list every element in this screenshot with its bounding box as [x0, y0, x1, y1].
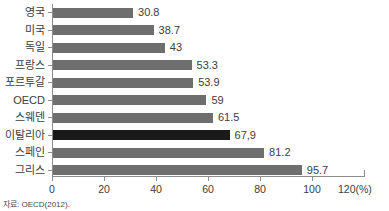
bar-row: 독일43	[52, 39, 364, 57]
x-axis-tick-label: 40	[150, 183, 162, 195]
category-label: 영국	[25, 4, 45, 22]
plot-area: 영국30.8미국38.7독일43프랑스53.3포르투갈53.9OECD59스웨덴…	[52, 4, 364, 176]
y-axis-tick	[48, 12, 52, 13]
bar-value-label: 59	[211, 92, 223, 110]
category-label: OECD	[13, 92, 45, 110]
bar-chart: 영국30.8미국38.7독일43프랑스53.3포르투갈53.9OECD59스웨덴…	[0, 0, 389, 211]
bar-value-label: 61.5	[218, 109, 239, 127]
category-label: 스페인	[15, 144, 45, 162]
y-axis-tick	[48, 135, 52, 136]
source-note: 자료: OECD(2012).	[3, 198, 70, 209]
y-axis-tick	[48, 100, 52, 101]
y-axis-tick	[48, 117, 52, 118]
category-label: 미국	[25, 22, 45, 40]
x-axis-end-tick	[364, 170, 365, 177]
y-axis-tick	[48, 152, 52, 153]
bar-value-label: 53.9	[198, 74, 219, 92]
x-axis-tick	[208, 176, 209, 181]
bar	[53, 60, 192, 70]
bar	[53, 43, 165, 53]
category-label: 프랑스	[15, 57, 45, 75]
x-axis-tick	[312, 176, 313, 181]
x-axis-tick-label: 20	[98, 183, 110, 195]
y-axis-tick	[48, 65, 52, 66]
bar-row: 영국30.8	[52, 4, 364, 22]
y-axis-tick	[48, 47, 52, 48]
x-axis-tick-label: 60	[202, 183, 214, 195]
x-axis-tick	[104, 176, 105, 181]
bar	[53, 95, 206, 105]
x-axis-tick-label: 0	[49, 183, 55, 195]
category-label: 독일	[25, 39, 45, 57]
bar	[53, 113, 213, 123]
bar-value-label: 67,9	[235, 127, 256, 145]
bar-value-label: 43	[170, 39, 182, 57]
bar	[53, 78, 193, 88]
x-axis-tick	[260, 176, 261, 181]
category-label: 그리스	[15, 162, 45, 180]
bar-row: OECD59	[52, 92, 364, 110]
y-axis-tick	[48, 170, 52, 171]
bar-value-label: 95.7	[307, 162, 328, 180]
category-label: 포르투갈	[5, 74, 45, 92]
bar	[53, 130, 230, 140]
x-axis-tick-label: 100	[303, 183, 321, 195]
bar-row: 프랑스53.3	[52, 57, 364, 75]
bar-row: 이탈리아67,9	[52, 127, 364, 145]
bar-value-label: 38.7	[159, 22, 180, 40]
y-axis-tick	[48, 30, 52, 31]
x-axis-tick	[156, 176, 157, 181]
y-axis-tick	[48, 82, 52, 83]
bar	[53, 8, 133, 18]
bar-row: 스페인81.2	[52, 144, 364, 162]
bar-row: 미국38.7	[52, 22, 364, 40]
bar-row: 스웨덴61.5	[52, 109, 364, 127]
bar-row: 포르투갈53.9	[52, 74, 364, 92]
bar	[53, 165, 302, 175]
category-label: 스웨덴	[15, 109, 45, 127]
x-axis-tick-label: 80	[254, 183, 266, 195]
x-axis-tick	[52, 176, 53, 181]
x-axis-tick-label: 120(%)	[338, 183, 372, 195]
bar	[53, 148, 264, 158]
bar-value-label: 53.3	[197, 57, 218, 75]
category-label: 이탈리아	[5, 127, 45, 145]
bar	[53, 25, 154, 35]
bar-value-label: 81.2	[269, 144, 290, 162]
bar-value-label: 30.8	[138, 4, 159, 22]
